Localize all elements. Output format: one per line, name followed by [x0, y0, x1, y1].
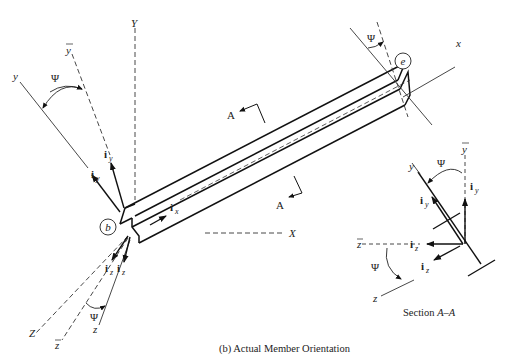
svg-text:z: z [414, 244, 419, 253]
psi-label-start-y: Ψ [51, 72, 60, 84]
svg-text:z: z [356, 238, 362, 250]
section-caption: Section A–A [403, 307, 456, 318]
section-iy-label: i y [420, 194, 429, 209]
svg-text:i: i [170, 201, 173, 213]
member-orientation-diagram: b e Y X Z y y Ψ z z Ψ x Ψ A A i y i y i … [0, 0, 513, 360]
svg-text:z: z [121, 268, 126, 277]
global-z-label: Z [29, 327, 36, 339]
section-y-label: y [408, 160, 414, 172]
section-psi-bottom: Ψ [371, 261, 380, 273]
svg-text:z: z [425, 266, 430, 275]
local-axes-end [350, 22, 455, 125]
svg-text:y: y [65, 44, 71, 56]
node-e-label: e [401, 55, 406, 67]
svg-text:i: i [105, 262, 108, 274]
svg-text:i: i [420, 194, 423, 206]
unit-vector-label-iybar: i y [104, 148, 113, 163]
member-body [120, 63, 410, 243]
member-centroid-axis [180, 80, 410, 200]
section-zbar-label: z [356, 238, 363, 250]
node-e: e [395, 53, 411, 69]
svg-text:i: i [104, 148, 107, 160]
svg-text:i: i [470, 180, 473, 192]
local-zbar-label: z [54, 339, 61, 351]
svg-text:z: z [54, 339, 60, 351]
svg-text:i: i [117, 262, 120, 274]
svg-text:y: y [108, 154, 113, 163]
section-mark-top: A [227, 109, 235, 121]
svg-text:z: z [109, 268, 114, 277]
svg-text:y: y [461, 143, 467, 155]
svg-text:y: y [95, 174, 100, 183]
svg-text:y: y [424, 200, 429, 209]
svg-text:i: i [410, 238, 413, 250]
section-mark-bottom: A [276, 199, 284, 211]
section-iz-label: i z [421, 260, 430, 275]
local-y-label: y [12, 70, 18, 82]
local-y-axes-start [20, 54, 110, 168]
unit-vector-label-izbar: i z [105, 262, 114, 277]
global-axes [36, 28, 285, 333]
section-psi-top: Ψ [437, 157, 446, 169]
section-cut-marks [240, 104, 302, 197]
node-b: b [100, 219, 116, 235]
svg-text:x: x [174, 207, 179, 216]
section-ybar-label: y [461, 143, 469, 155]
global-y-label: Y [131, 17, 139, 29]
psi-label-start-z: Ψ [90, 311, 99, 323]
section-izbar-label: i z [410, 238, 419, 253]
section-iybar-label: i y [470, 180, 479, 195]
unit-vector-label-iy: i y [91, 168, 100, 183]
psi-label-end: Ψ [367, 32, 376, 44]
unit-vectors-start [92, 163, 166, 262]
local-x-label: x [455, 37, 461, 49]
section-z-label: z [372, 292, 378, 304]
figure-caption: (b) Actual Member Orientation [219, 343, 351, 355]
svg-text:i: i [91, 168, 94, 180]
global-x-label: X [288, 227, 297, 239]
svg-text:i: i [421, 260, 424, 272]
node-b-label: b [105, 221, 111, 233]
local-z-label: z [92, 323, 98, 335]
svg-text:y: y [474, 186, 479, 195]
